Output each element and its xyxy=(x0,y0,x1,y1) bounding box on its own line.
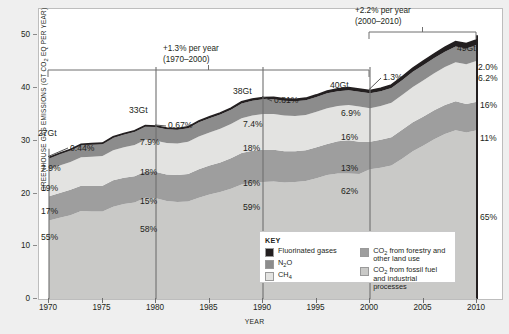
legend-swatch-n2o xyxy=(265,260,274,269)
share-f-1990: 0.81% xyxy=(274,95,298,105)
share-fossil-2000: 62% xyxy=(341,186,358,196)
legend-label-co2-forestry: CO2 from forestry and other land use xyxy=(373,247,450,264)
y-tick-40: 40 xyxy=(2,83,30,92)
growth-period-1: (1970–2000) xyxy=(163,55,219,66)
y-tick-30: 30 xyxy=(2,135,30,144)
total-label-1970: 27Gt xyxy=(38,128,57,138)
share-n2o-2000: 6.9% xyxy=(341,108,361,118)
y-tick-50: 50 xyxy=(2,30,30,39)
y-tickmark-0 xyxy=(33,298,37,299)
share-n2o-1990: 7.4% xyxy=(243,119,263,129)
share-forestry-1990: 16% xyxy=(243,178,260,188)
y-tickmark-30 xyxy=(33,140,37,141)
x-tick-1990: 1990 xyxy=(253,303,271,312)
legend-item-co2-forestry[interactable]: CO2 from forestry and other land use xyxy=(360,247,450,264)
legend-title: KEY xyxy=(265,236,450,245)
share-forestry-1970: 17% xyxy=(41,206,58,216)
legend-swatch-co2-forestry xyxy=(360,248,369,257)
x-tickmark-2010 xyxy=(476,298,477,303)
x-tickmark-2005 xyxy=(423,298,424,303)
share-ch4-1980: 18% xyxy=(140,167,157,177)
y-tickmark-50 xyxy=(33,34,37,35)
y-tick-0: 0 xyxy=(2,294,30,303)
total-label-1980: 33Gt xyxy=(129,105,148,115)
x-tick-1980: 1980 xyxy=(146,303,164,312)
share-fossil-2010: 65% xyxy=(480,212,497,222)
growth-rate-1: +1.3% per year xyxy=(163,44,219,55)
total-label-1990: 38Gt xyxy=(233,86,252,96)
legend-swatch-ch4 xyxy=(265,272,274,281)
share-forestry-2010: 11% xyxy=(480,133,497,143)
x-tick-2005: 2005 xyxy=(413,303,431,312)
share-f-2000: 1.3% xyxy=(383,72,403,82)
share-n2o-1980: 7.9% xyxy=(140,137,160,147)
share-n2o-2010: 6.2% xyxy=(478,73,498,83)
legend-item-ch4[interactable]: CH4 xyxy=(265,271,351,281)
x-tickmark-1995 xyxy=(316,298,317,303)
legend-item-co2-fossil[interactable]: CO2 from fossil fuel and industrial proc… xyxy=(360,266,450,291)
legend-swatch-fluorinated-gases xyxy=(265,248,274,257)
growth-annotation-2000-2010: +2.2% per year (2000–2010) xyxy=(355,6,411,27)
total-label-2010: 49Gt xyxy=(457,43,476,53)
share-ch4-1990: 18% xyxy=(243,143,260,153)
share-f-1970: 0.44% xyxy=(70,143,94,153)
y-tickmark-10 xyxy=(33,245,37,246)
x-tick-2010: 2010 xyxy=(467,303,485,312)
x-tickmark-1975 xyxy=(102,298,103,303)
x-tickmark-2000 xyxy=(369,298,370,303)
y-tick-20: 20 xyxy=(2,188,30,197)
legend-label-fluorinated-gases: Fluorinated gases xyxy=(278,247,337,255)
x-tick-1975: 1975 xyxy=(92,303,110,312)
share-fossil-1970: 55% xyxy=(41,232,58,242)
share-f-1980: 0.67% xyxy=(168,120,192,130)
share-forestry-1980: 15% xyxy=(140,196,157,206)
x-tickmark-1980 xyxy=(155,298,156,303)
share-ch4-1970: 19% xyxy=(41,183,58,193)
legend-item-n2o[interactable]: N2O xyxy=(265,259,351,269)
x-tick-1995: 1995 xyxy=(306,303,324,312)
share-n2o-1970: 7.9% xyxy=(41,163,61,173)
figure-root: GREENHOUSE GAS EMISSIONS (GT CO2 EQ PER … xyxy=(0,0,509,334)
growth-annotation-1970-2000: +1.3% per year (1970–2000) xyxy=(163,44,219,65)
share-ch4-2000: 16% xyxy=(341,132,358,142)
legend-label-co2-fossil: CO2 from fossil fuel and industrial proc… xyxy=(373,266,450,291)
legend-label-ch4: CH4 xyxy=(278,271,292,279)
x-tick-2000: 2000 xyxy=(360,303,378,312)
x-tickmark-1970 xyxy=(48,298,49,303)
total-label-2000: 40Gt xyxy=(330,80,349,90)
legend-label-n2o: N2O xyxy=(278,259,292,267)
share-fossil-1990: 59% xyxy=(243,202,260,212)
y-tick-10: 10 xyxy=(2,241,30,250)
legend-swatch-co2-fossil xyxy=(360,267,369,276)
x-tick-1985: 1985 xyxy=(199,303,217,312)
growth-rate-2: +2.2% per year xyxy=(355,6,411,17)
x-tickmark-1990 xyxy=(262,298,263,303)
y-tickmark-20 xyxy=(33,193,37,194)
x-tick-1970: 1970 xyxy=(39,303,57,312)
share-forestry-2000: 13% xyxy=(341,163,358,173)
legend: KEY Fluorinated gases N2O CH4 xyxy=(259,231,456,283)
share-fossil-1980: 58% xyxy=(140,224,157,234)
legend-item-fluorinated-gases[interactable]: Fluorinated gases xyxy=(265,247,351,257)
growth-period-2: (2000–2010) xyxy=(355,17,411,28)
y-tickmark-40 xyxy=(33,87,37,88)
share-ch4-2010: 16% xyxy=(480,100,497,110)
share-f-2010: 2.0% xyxy=(478,62,498,72)
x-tickmark-1985 xyxy=(209,298,210,303)
x-axis-title: YEAR xyxy=(0,318,509,325)
